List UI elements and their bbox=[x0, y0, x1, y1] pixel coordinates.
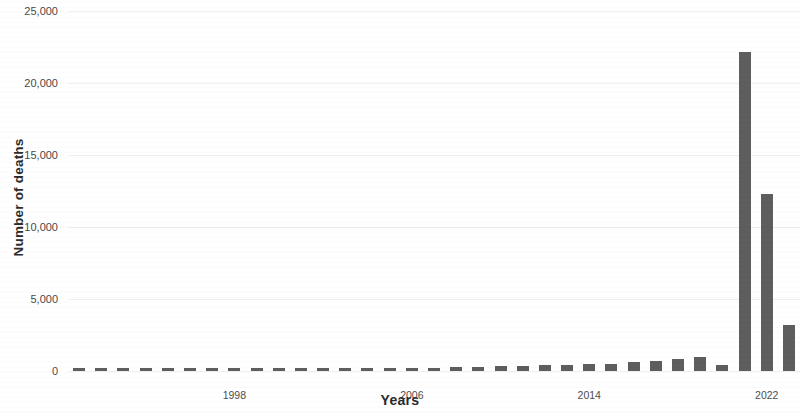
bar bbox=[761, 194, 773, 371]
bar bbox=[206, 368, 218, 371]
bar bbox=[450, 367, 462, 371]
y-axis-tick-label: 15,000 bbox=[0, 149, 58, 161]
bar bbox=[295, 368, 307, 371]
bar bbox=[428, 368, 440, 371]
bar bbox=[73, 368, 85, 371]
y-axis-tick-label: 5,000 bbox=[0, 293, 58, 305]
bar bbox=[716, 365, 728, 371]
bar bbox=[583, 364, 595, 371]
gridline bbox=[68, 371, 800, 372]
y-axis-tick-label: 10,000 bbox=[0, 221, 58, 233]
bar bbox=[650, 361, 662, 371]
x-axis-title: Years bbox=[0, 392, 800, 408]
bar bbox=[384, 368, 396, 371]
y-axis-title: Number of deaths bbox=[11, 88, 26, 308]
bar bbox=[739, 52, 751, 371]
bar bbox=[361, 368, 373, 371]
gridline bbox=[68, 227, 800, 228]
gridline bbox=[68, 83, 800, 84]
gridline bbox=[68, 299, 800, 300]
bar bbox=[517, 366, 529, 371]
gridline bbox=[68, 11, 800, 12]
bar bbox=[273, 368, 285, 371]
bar bbox=[406, 368, 418, 371]
bar bbox=[672, 359, 684, 371]
bar bbox=[184, 368, 196, 371]
bar bbox=[628, 362, 640, 371]
bar bbox=[495, 366, 507, 371]
bar bbox=[228, 368, 240, 371]
gridline bbox=[68, 155, 800, 156]
bar bbox=[317, 368, 329, 371]
y-axis-tick-label: 0 bbox=[0, 365, 58, 377]
bar bbox=[95, 368, 107, 371]
bar bbox=[140, 368, 152, 371]
bar bbox=[783, 325, 795, 371]
bar bbox=[162, 368, 174, 371]
bar bbox=[561, 365, 573, 371]
y-axis-tick-label: 25,000 bbox=[0, 5, 58, 17]
bar bbox=[251, 368, 263, 371]
bar bbox=[339, 368, 351, 371]
bar bbox=[472, 367, 484, 371]
y-axis-tick-label: 20,000 bbox=[0, 77, 58, 89]
bar bbox=[539, 365, 551, 371]
bar-chart: Number of deaths 05,00010,00015,00020,00… bbox=[0, 0, 800, 413]
bar bbox=[694, 357, 706, 371]
bar bbox=[605, 364, 617, 371]
plot-area: 05,00010,00015,00020,00025,0001998200620… bbox=[68, 11, 800, 371]
bar bbox=[117, 368, 129, 371]
